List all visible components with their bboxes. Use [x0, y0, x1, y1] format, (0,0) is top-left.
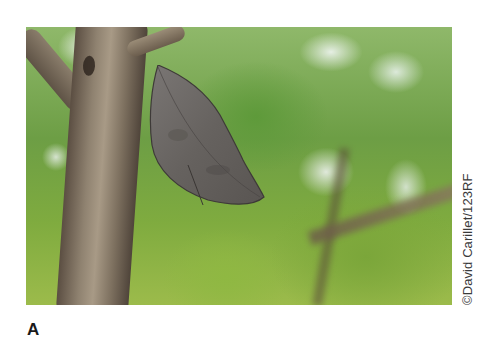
photo-credit: ©David Carillet/123RF	[460, 173, 475, 305]
panel-label: A	[27, 320, 39, 340]
butterfly-photo	[26, 27, 452, 305]
leaf-butterfly	[148, 65, 266, 205]
